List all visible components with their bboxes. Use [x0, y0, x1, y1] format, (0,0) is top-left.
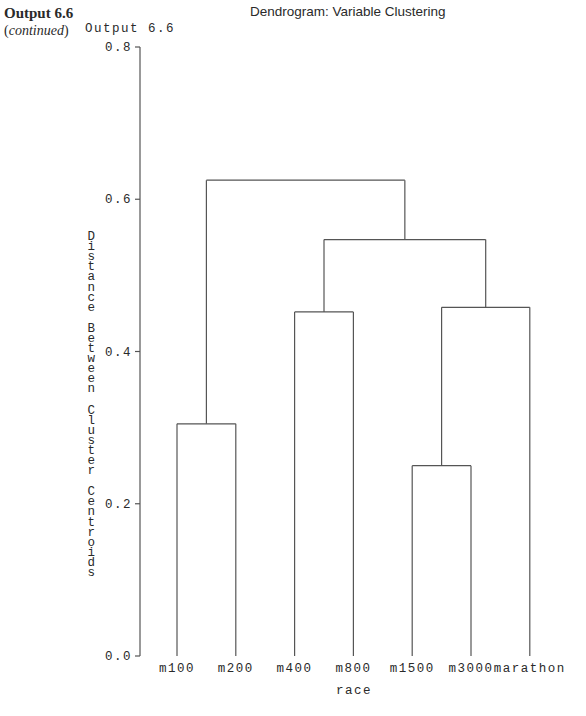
x-tick-label: m800 [335, 662, 371, 676]
x-tick-label: m400 [277, 662, 313, 676]
x-axis-label: race [336, 684, 372, 698]
y-tick-label: 0.0 [105, 650, 132, 664]
y-tick-label: 0.6 [105, 193, 132, 207]
x-tick-label: m100 [159, 662, 195, 676]
dendrogram-chart: 0.00.20.40.60.8Distance Between Cluster … [0, 0, 586, 716]
x-tick-label: marathon [494, 662, 566, 676]
x-tick-label: m1500 [390, 662, 435, 676]
x-tick-label: m200 [218, 662, 254, 676]
x-tick-label: m3000 [448, 662, 493, 676]
y-tick-label: 0.4 [105, 346, 132, 360]
y-tick-label: 0.8 [105, 41, 132, 55]
y-axis-label: Distance Between Cluster Centroids [87, 230, 96, 580]
y-tick-label: 0.2 [105, 498, 132, 512]
